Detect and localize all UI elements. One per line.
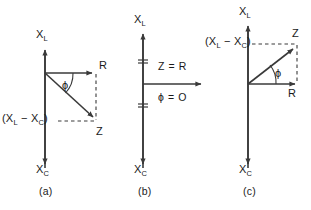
panel-c-label-net-reactance: (XL − XC) <box>205 36 251 50</box>
panel-c-label-r: R <box>288 88 296 99</box>
panel-c-label-phi: ϕ <box>275 68 281 79</box>
panel-c-label-xc: XC <box>239 164 252 178</box>
panel-a-vector-z <box>45 73 93 117</box>
panel-a-label-z: Z <box>96 126 103 137</box>
panel-a-label-r: R <box>99 60 107 71</box>
panel-b-caption: (b) <box>138 186 151 197</box>
panel-c-label-z: Z <box>292 28 299 39</box>
panel-a-label-xl: XL <box>36 29 48 43</box>
panel-a-label-xc: XC <box>36 164 49 178</box>
impedance-phasor-figure: XL XC R Z ϕ (XL − XC) (a) XL XC Z = R ϕ … <box>0 0 311 210</box>
panel-b-label-z-equals-r: Z = R <box>158 61 187 72</box>
panel-a-label-phi: ϕ <box>62 80 68 91</box>
panel-b-label-phi-equals-zero: ϕ = O <box>158 92 187 103</box>
panel-b-label-xc: XC <box>134 164 147 178</box>
panel-c-label-xl: XL <box>239 6 251 20</box>
panel-a-graphics <box>45 50 96 168</box>
panel-a-caption: (a) <box>39 186 52 197</box>
panel-c-caption: (c) <box>243 186 256 197</box>
panel-a-label-net-reactance: (XL − XC) <box>2 113 48 127</box>
panel-b-label-xl: XL <box>134 14 146 28</box>
